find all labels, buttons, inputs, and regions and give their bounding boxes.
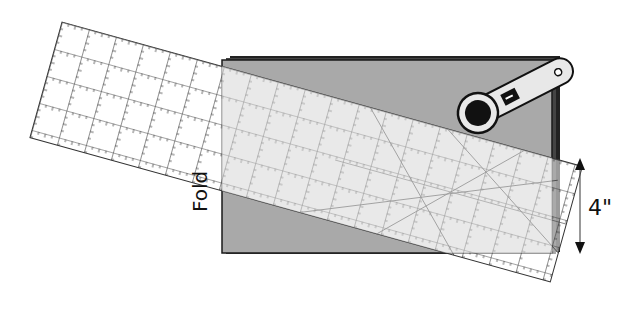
diagram-canvas	[0, 0, 637, 316]
fold-label: Fold	[188, 171, 212, 212]
measurement-label: 4"	[588, 195, 612, 220]
